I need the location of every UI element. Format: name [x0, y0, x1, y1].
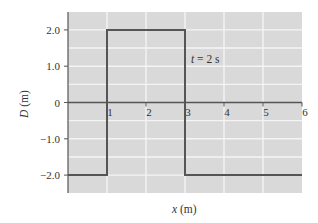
annotation: t = 2 s	[191, 53, 220, 65]
chart: 2.01.00−1.0−2.0123456 t = 2 s x (m) D (m…	[0, 0, 318, 223]
y-tick-label: 2.0	[46, 24, 60, 36]
x-tick-label: 3	[185, 106, 191, 118]
y-axis-label: D (m)	[18, 90, 31, 119]
x-tick-label: 4	[224, 106, 230, 118]
x-tick-label: 6	[302, 106, 308, 118]
x-tick-label: 2	[146, 106, 152, 118]
x-axis-label: x (m)	[171, 203, 197, 216]
y-tick-label: 1.0	[46, 60, 60, 72]
y-tick-label: −1.0	[40, 133, 60, 145]
y-tick-label: −2.0	[40, 169, 60, 181]
y-tick-label: 0	[55, 97, 61, 109]
x-tick-label: 5	[263, 106, 269, 118]
x-tick-label: 1	[107, 106, 113, 118]
